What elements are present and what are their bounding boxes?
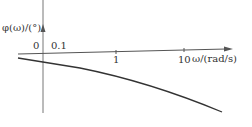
y-axis-label: φ(ω)/(°) — [2, 22, 41, 33]
phase-curve — [18, 58, 222, 112]
tick-label-10: 10 — [178, 54, 191, 65]
x-axis-arrow-icon — [224, 47, 233, 52]
x-axis-label: ω/(rad/s) — [192, 53, 237, 64]
phase-plot: φ(ω)/(°) 0 0.1 1 10 ω/(rad/s) — [0, 0, 252, 127]
tick-label-1: 1 — [113, 54, 119, 65]
y-axis-arrow-icon — [41, 24, 46, 32]
origin-label: 0 — [33, 40, 39, 51]
tick-label-0.1: 0.1 — [51, 40, 67, 51]
